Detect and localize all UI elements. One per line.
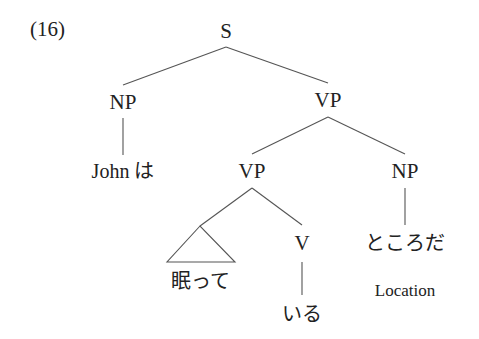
word-john-wa: John は — [92, 161, 155, 181]
triangle-icon — [167, 226, 235, 262]
branch-vp-triangle — [200, 188, 252, 226]
word-nemutte: 眠って — [171, 271, 230, 291]
node-np-subject: NP — [110, 92, 137, 113]
node-vp-top: VP — [315, 90, 342, 111]
node-s: S — [220, 21, 232, 42]
branch-vp-v — [252, 188, 302, 225]
node-v: V — [294, 233, 309, 254]
node-vp-inner: VP — [239, 161, 266, 182]
branch-s-np — [123, 47, 226, 85]
word-tokoroda: ところだ — [365, 233, 445, 253]
node-np-object: NP — [392, 161, 419, 182]
branch-vp-vp — [252, 117, 328, 154]
branch-vp-np — [328, 117, 405, 154]
branch-s-vp — [226, 47, 328, 83]
gloss-location: Location — [375, 282, 435, 299]
word-iru: いる — [282, 304, 322, 324]
